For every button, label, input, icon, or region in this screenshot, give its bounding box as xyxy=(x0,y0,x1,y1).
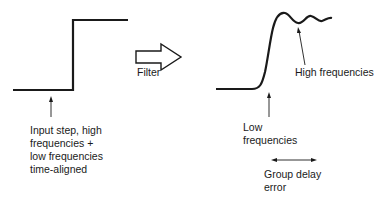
high-frequencies-pointer-arrow-icon xyxy=(297,27,305,65)
group-delay-label-line-1: Group delay xyxy=(264,168,321,181)
low-frequencies-label-line-1: Low xyxy=(243,121,262,134)
high-frequencies-label: High frequencies xyxy=(295,66,374,79)
group-delay-double-arrow-icon xyxy=(271,158,317,162)
low-frequencies-pointer-arrow-icon xyxy=(267,92,271,117)
input-step-waveform xyxy=(13,20,128,90)
input-pointer-arrow-icon xyxy=(49,96,53,117)
input-caption-line-3: low frequencies xyxy=(30,150,103,163)
low-frequencies-label-line-2: frequencies xyxy=(243,134,297,147)
input-caption-line-1: Input step, high xyxy=(30,124,102,137)
group-delay-label-line-2: error xyxy=(264,181,286,194)
input-caption-line-2: frequencies + xyxy=(30,137,93,150)
input-caption-line-4: time-aligned xyxy=(30,163,87,176)
filter-label: Filter xyxy=(137,66,160,79)
